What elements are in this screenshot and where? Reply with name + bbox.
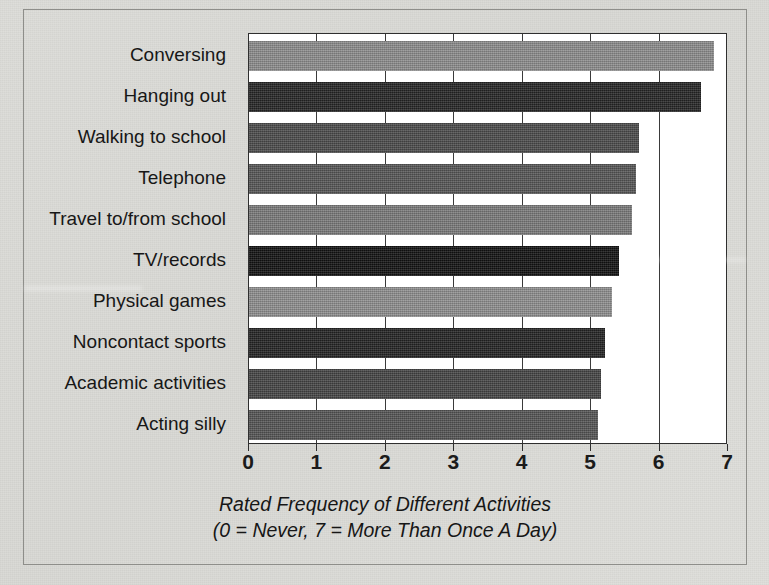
bar-row bbox=[249, 82, 728, 112]
bar-travel-to-from-school bbox=[249, 205, 632, 235]
x-tick-label-5: 5 bbox=[570, 450, 610, 474]
category-label-travel-to-from-school: Travel to/from school bbox=[0, 209, 236, 228]
caption-line-2: (0 = Never, 7 = More Than Once A Day) bbox=[23, 518, 747, 544]
bar-conversing bbox=[249, 41, 714, 71]
bar-walking-to-school bbox=[249, 123, 639, 153]
bar-row bbox=[249, 41, 728, 71]
bar-acting-silly bbox=[249, 410, 598, 440]
category-label-hanging-out: Hanging out bbox=[0, 86, 236, 105]
x-tick-label-4: 4 bbox=[502, 450, 542, 474]
x-tick-label-3: 3 bbox=[433, 450, 473, 474]
x-tick-label-7: 7 bbox=[707, 450, 747, 474]
bar-hanging-out bbox=[249, 82, 701, 112]
chart-plot-area bbox=[248, 33, 727, 444]
category-label-acting-silly: Acting silly bbox=[0, 414, 236, 433]
bar-row bbox=[249, 246, 728, 276]
bar-row bbox=[249, 123, 728, 153]
bar-row bbox=[249, 164, 728, 194]
x-tick-label-1: 1 bbox=[296, 450, 336, 474]
category-label-academic-activities: Academic activities bbox=[0, 373, 236, 392]
figure-page: ConversingHanging outWalking to schoolTe… bbox=[0, 0, 769, 585]
bar-academic-activities bbox=[249, 369, 601, 399]
bar-tv-records bbox=[249, 246, 619, 276]
category-label-telephone: Telephone bbox=[0, 168, 236, 187]
category-label-noncontact-sports: Noncontact sports bbox=[0, 332, 236, 351]
category-label-walking-to-school: Walking to school bbox=[0, 127, 236, 146]
bar-row bbox=[249, 328, 728, 358]
bar-noncontact-sports bbox=[249, 328, 605, 358]
bar-telephone bbox=[249, 164, 636, 194]
bar-row bbox=[249, 410, 728, 440]
x-tick-label-0: 0 bbox=[228, 450, 268, 474]
bar-row bbox=[249, 205, 728, 235]
x-tick-label-2: 2 bbox=[365, 450, 405, 474]
category-label-conversing: Conversing bbox=[0, 45, 236, 64]
bar-physical-games bbox=[249, 287, 612, 317]
x-tick-label-6: 6 bbox=[639, 450, 679, 474]
category-label-physical-games: Physical games bbox=[0, 291, 236, 310]
category-label-tv-records: TV/records bbox=[0, 250, 236, 269]
bar-row bbox=[249, 287, 728, 317]
chart-caption: Rated Frequency of Different Activities … bbox=[23, 492, 747, 543]
caption-line-1: Rated Frequency of Different Activities bbox=[23, 492, 747, 518]
bar-row bbox=[249, 369, 728, 399]
